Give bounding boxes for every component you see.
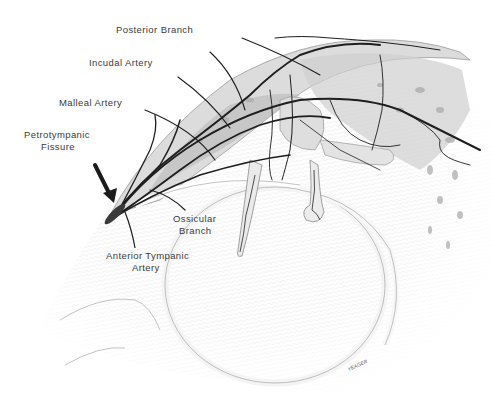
label-ossicular: Ossicular <box>173 213 216 225</box>
label-artery: Artery <box>132 262 160 274</box>
ear-vasculature-drawing <box>0 0 492 409</box>
label-petrotympanic: Petrotympanic <box>24 129 90 141</box>
label-malleal-artery: Malleal Artery <box>59 97 122 109</box>
label-anterior-tympanic: Anterior Tympanic <box>106 250 189 262</box>
label-posterior-branch: Posterior Branch <box>116 24 193 36</box>
fissure-arrow-icon <box>95 165 117 203</box>
label-incudal-artery: Incudal Artery <box>89 57 153 69</box>
label-fissure: Fissure <box>41 141 75 153</box>
label-branch: Branch <box>179 225 212 237</box>
anatomical-illustration: Posterior Branch Incudal Artery Malleal … <box>0 0 492 409</box>
